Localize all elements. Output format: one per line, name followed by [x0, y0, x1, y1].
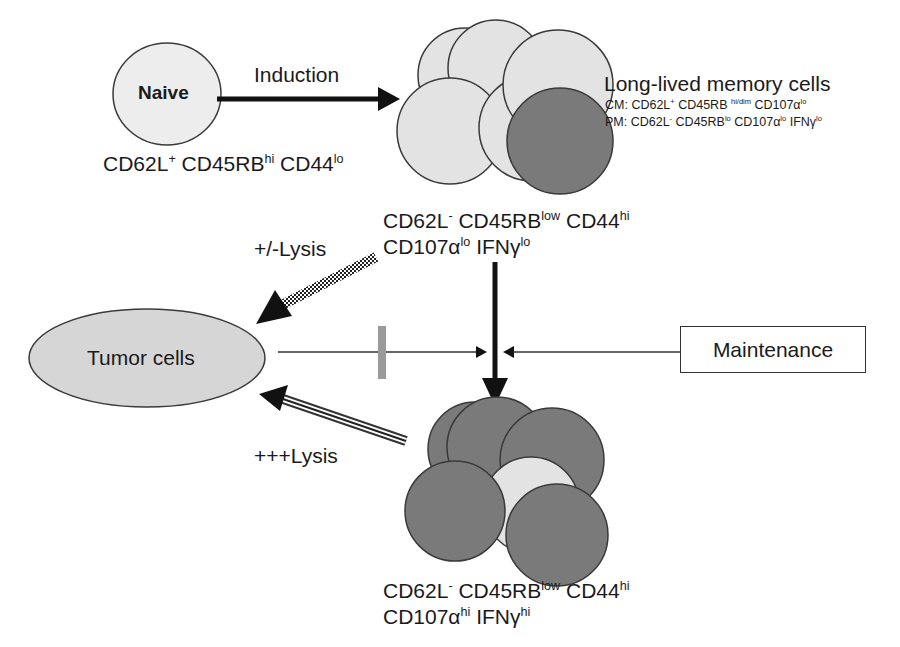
effector-cell-cluster: [405, 397, 608, 586]
marker-sup: lo: [334, 152, 344, 166]
induction-label: Induction: [254, 63, 339, 87]
weak-lysis-label: +/-Lysis: [254, 237, 326, 261]
marker-sup: lo: [521, 235, 531, 249]
memory-title: Long-lived memory cells: [604, 72, 830, 96]
tumor-label: Tumor cells: [87, 346, 195, 370]
marker-sup: +: [168, 152, 175, 166]
marker-base: CD62L: [383, 209, 448, 232]
marker-base: CD62L: [383, 579, 448, 602]
marker-base: CD107α: [731, 115, 781, 129]
memory-pm-markers: PM: CD62L- CD45RBlo CD107αlo IFNγlo: [605, 114, 822, 130]
marker-base: CD45RB: [675, 98, 731, 112]
memory-phenotype-line2: CD107αlo IFNγlo: [383, 235, 530, 259]
marker-base: IFNγ: [470, 235, 520, 258]
marker-base: CD107α: [751, 98, 801, 112]
marker-base: IFNγ: [786, 115, 816, 129]
marker-sup: hi: [620, 579, 630, 593]
inhibit-bar: [378, 326, 386, 379]
marker-base: IFNγ: [470, 605, 520, 628]
marker-sup: hi: [521, 605, 531, 619]
marker-sup: hi: [461, 605, 471, 619]
tumor-inhibit-arrow: [278, 326, 487, 379]
marker-sup: low: [541, 579, 560, 593]
marker-sup: lo: [801, 97, 807, 106]
marker-sup: hi/dim: [731, 97, 751, 106]
marker-base: CD45RB: [453, 209, 542, 232]
activation-arrow: [482, 262, 508, 406]
marker-base: CD44: [560, 579, 620, 602]
marker-sup: hi: [620, 209, 630, 223]
maintenance-label: Maintenance: [713, 338, 833, 362]
naive-label: Naive: [138, 82, 189, 104]
marker-sup: lo: [461, 235, 471, 249]
marker-base: CD45RB: [453, 579, 542, 602]
effector-phenotype-line2: CD107αhi IFNγhi: [383, 605, 530, 629]
maintenance-arrow: [503, 346, 680, 358]
memory-cell-cluster: [397, 20, 613, 194]
marker-base: CD62L: [103, 152, 168, 175]
marker-base: CD44: [274, 152, 334, 175]
strong-lysis-arrow: [259, 385, 406, 441]
weak-lysis-arrow: [256, 257, 376, 324]
marker-sup: low: [541, 209, 560, 223]
marker-base: CM: CD62L: [605, 98, 670, 112]
marker-base: CD44: [560, 209, 620, 232]
naive-markers: CD62L+ CD45RBhi CD44lo: [103, 152, 344, 176]
marker-base: CD107α: [383, 235, 461, 258]
marker-base: CD45RB: [672, 115, 725, 129]
memory-phenotype-line1: CD62L- CD45RBlow CD44hi: [383, 209, 630, 233]
memory-cm-markers: CM: CD62L+ CD45RB hi/dim CD107αlo: [605, 97, 806, 113]
marker-base: CD45RB: [176, 152, 265, 175]
maintenance-box: Maintenance: [680, 326, 866, 373]
marker-base: PM: CD62L: [605, 115, 670, 129]
effector-phenotype-line1: CD62L- CD45RBlow CD44hi: [383, 579, 630, 603]
induction-arrow: [217, 87, 400, 111]
marker-sup: hi: [264, 152, 274, 166]
marker-base: CD107α: [383, 605, 461, 628]
strong-lysis-label: +++Lysis: [254, 444, 338, 468]
marker-sup: lo: [816, 114, 822, 123]
